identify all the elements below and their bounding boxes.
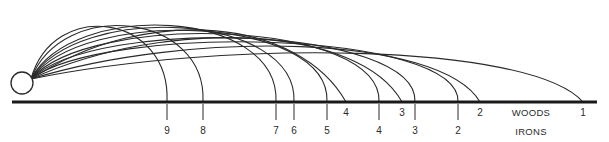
wood-2-label: 2: [477, 108, 483, 118]
woods-label: WOODS: [512, 108, 550, 118]
wood-4-label: 4: [343, 108, 349, 118]
iron-9-label: 9: [164, 126, 170, 136]
trajectory-arcs: [31, 25, 583, 102]
wood-1-label: 1: [580, 108, 586, 118]
iron-8-label: 8: [200, 126, 206, 136]
wood-3-label: 3: [399, 108, 405, 118]
iron-6-label: 6: [291, 126, 297, 136]
iron-9-trajectory: [31, 26, 167, 102]
golf-ball-icon: [11, 72, 33, 94]
iron-5-label: 5: [324, 126, 330, 136]
iron-2-label: 2: [455, 126, 461, 136]
iron-7-trajectory: [31, 25, 276, 102]
golf-club-trajectory-diagram: [0, 0, 609, 142]
iron-distance-ticks: [167, 104, 458, 120]
iron-3-label: 3: [412, 126, 418, 136]
iron-7-label: 7: [273, 126, 279, 136]
iron-4-label: 4: [376, 126, 382, 136]
iron-2-trajectory: [31, 42, 458, 102]
irons-label: IRONS: [515, 127, 547, 137]
